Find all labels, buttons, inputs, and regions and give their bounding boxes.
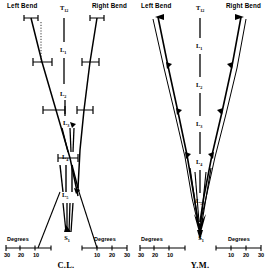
ym-caption: Y.M. xyxy=(191,261,210,270)
cl-midline xyxy=(0,0,133,271)
cl-tick-10-left: 10 xyxy=(33,252,39,258)
ym-tick-20-left: 20 xyxy=(152,252,158,258)
ym-tick-10-right: 10 xyxy=(228,252,234,258)
cl-tick-20-left: 20 xyxy=(18,252,24,258)
ym-degrees-right: Degrees xyxy=(228,236,250,242)
ym-tick-30-left: 30 xyxy=(138,252,144,258)
cl-degrees-left: Degrees xyxy=(7,236,29,242)
ym-tick-20-right: 20 xyxy=(243,252,249,258)
spine-motion-figure: Left Bend Right Bend xyxy=(0,0,267,271)
ym-tick-10-left: 10 xyxy=(167,252,173,258)
cl-tick-10-right: 10 xyxy=(94,252,100,258)
ym-degrees-left: Degrees xyxy=(141,236,163,242)
panel-cl: Left Bend Right Bend xyxy=(0,0,133,271)
cl-tick-30-left: 30 xyxy=(4,252,10,258)
ym-label-t12: T12 xyxy=(196,4,204,13)
ym-label-s1: S1 xyxy=(198,234,204,243)
cl-caption: C.L. xyxy=(57,261,74,270)
panel-ym: Left Bend Right Bend xyxy=(134,0,267,271)
ym-label-l5: L5 xyxy=(196,197,202,206)
ym-label-l3: L3 xyxy=(196,120,202,129)
ym-label-l1: L1 xyxy=(196,42,202,51)
cl-tick-20-right: 20 xyxy=(109,252,115,258)
ym-tick-30-right: 30 xyxy=(258,252,264,258)
ym-label-l2: L2 xyxy=(196,81,202,90)
ym-label-l4: L4 xyxy=(196,158,202,167)
cl-tick-30-right: 30 xyxy=(124,252,130,258)
ym-midline xyxy=(134,0,267,271)
cl-degrees-right: Degrees xyxy=(94,236,116,242)
